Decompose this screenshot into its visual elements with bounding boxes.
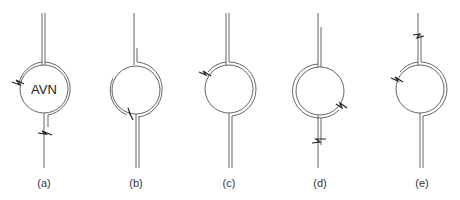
panel-label-e: (e)	[415, 177, 428, 189]
block-mark-icon	[38, 131, 52, 135]
avn-pathway-diagram: AVN	[0, 0, 460, 200]
avn-label: AVN	[31, 82, 57, 97]
panel-label-a: (a)	[37, 177, 50, 189]
block-mark-icon	[12, 80, 24, 85]
panel-c	[199, 13, 256, 168]
panel-e	[391, 13, 447, 168]
block-mark-icon	[413, 34, 424, 38]
panel-b	[110, 13, 162, 168]
block-mark-icon	[312, 139, 326, 143]
panel-label-c: (c)	[223, 177, 236, 189]
block-mark-icon	[199, 71, 211, 76]
panel-label-b: (b)	[129, 177, 142, 189]
panel-d	[292, 13, 347, 168]
panel-label-d: (d)	[313, 177, 326, 189]
panel-a: AVN	[12, 13, 70, 168]
